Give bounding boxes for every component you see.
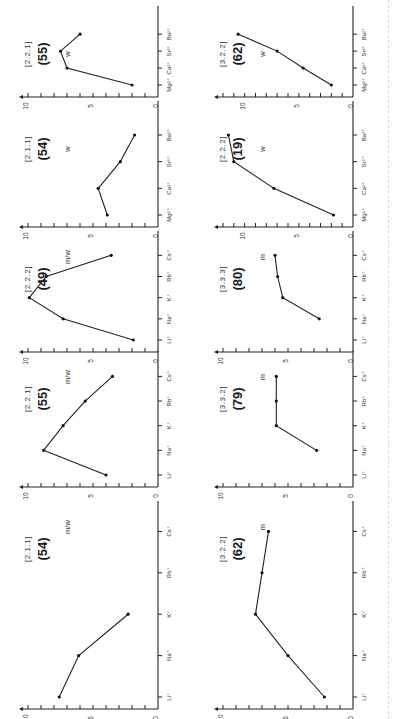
x-tick-label: Na⁺	[361, 650, 367, 661]
data-point	[84, 399, 87, 402]
y-tick-label: 10	[22, 714, 29, 719]
data-point	[276, 50, 279, 53]
x-tick-label: Ca²⁺	[361, 62, 367, 75]
x-tick-label: Mg²⁺	[361, 78, 367, 91]
compound-id: (79)	[230, 387, 245, 410]
x-tick-label: Cs⁺	[166, 250, 172, 260]
ligand-label: [2.2.1]	[23, 386, 32, 412]
compound-id: (55)	[35, 42, 50, 65]
y-tick-label: 5	[282, 359, 289, 363]
arrow-icon	[214, 350, 218, 354]
arrow-icon	[19, 225, 23, 229]
data-point	[275, 375, 278, 378]
panel-49-alkali: 0510Li⁺Na⁺K⁺Rb⁺Cs⁺[2.2.2](49)m/w	[0, 225, 180, 360]
x-tick-label: Ba²⁺	[166, 28, 172, 40]
x-tick-label: Cs⁺	[361, 371, 367, 381]
plot-axes: 0510Li⁺Na⁺K⁺Rb⁺Cs⁺	[214, 501, 367, 719]
x-tick-label: Rb⁺	[166, 271, 172, 282]
compound-id: (62)	[230, 42, 245, 65]
y-tick-label: 10	[217, 714, 224, 719]
data-point	[332, 213, 335, 216]
data-point	[58, 695, 61, 698]
x-tick-label: Cs⁺	[361, 250, 367, 260]
x-tick-label: K⁺	[166, 294, 172, 301]
data-point	[42, 449, 45, 452]
data-point	[130, 83, 133, 86]
selectivity-label: w	[258, 146, 267, 153]
data-line	[44, 376, 113, 475]
x-tick-label: Mg²⁺	[166, 78, 172, 91]
x-tick-label: Ca²⁺	[166, 62, 172, 75]
compound-id: (62)	[230, 537, 245, 560]
compound-id: (54)	[35, 137, 50, 160]
selectivity-label: m/w	[63, 370, 72, 384]
data-point	[62, 317, 65, 320]
y-tick-label: 0	[152, 104, 159, 108]
x-tick-label: Li⁺	[361, 471, 367, 479]
y-tick-label: 10	[22, 232, 29, 240]
y-tick-label: 0	[152, 494, 159, 498]
x-tick-label: Ba²⁺	[361, 129, 367, 141]
x-tick-label: Sr²⁺	[361, 46, 367, 57]
data-point	[237, 33, 240, 36]
selectivity-label: m	[258, 374, 267, 380]
panel-54-alkaline-earth: 0510Mg²⁺Ca²⁺Sr²⁺Ba²⁺[2.1.1](54)w	[0, 95, 180, 235]
x-tick-label: K⁺	[361, 294, 367, 301]
x-tick-label: Sr²⁺	[166, 156, 172, 167]
x-tick-label: Cs⁺	[166, 371, 172, 381]
data-line	[256, 531, 325, 697]
data-point	[273, 254, 276, 257]
selectivity-label: m/w	[63, 250, 72, 264]
ligand-label: [3.2.2]	[218, 41, 227, 67]
data-point	[260, 571, 263, 574]
data-point	[227, 133, 230, 136]
selectivity-label: w	[63, 51, 72, 58]
x-tick-label: Rb⁺	[361, 271, 367, 282]
data-point	[28, 296, 31, 299]
panel-79-alkali: 0510Li⁺Na⁺K⁺Rb⁺Cs⁺[3.3.2](79)m	[195, 345, 375, 495]
arrow-icon	[214, 485, 218, 489]
data-point	[110, 254, 113, 257]
data-point	[78, 33, 81, 36]
ligand-label: [2.2.2]	[23, 266, 32, 292]
panel-19-alkaline-earth: 0510Mg²⁺Ca²⁺Sr²⁺Ba²⁺[2.2.2](19)w	[195, 95, 375, 235]
data-point	[97, 187, 100, 190]
data-point	[119, 160, 122, 163]
plot-axes: 0510Li⁺Na⁺K⁺Rb⁺Cs⁺	[214, 231, 367, 365]
data-point	[330, 83, 333, 86]
data-point	[65, 66, 68, 69]
data-point	[276, 275, 279, 278]
data-line	[98, 135, 134, 215]
selectivity-label: m	[258, 524, 267, 530]
arrow-icon	[19, 350, 23, 354]
x-tick-label: Na⁺	[166, 445, 172, 456]
data-point	[111, 375, 114, 378]
panel-55-alkali: 0510Li⁺Na⁺K⁺Rb⁺Cs⁺[2.2.1](55)m/w	[0, 345, 180, 495]
ligand-label: [2.2.1]	[23, 41, 32, 67]
y-tick-label: 10	[239, 102, 246, 110]
x-tick-label: Mg²⁺	[361, 208, 367, 221]
x-tick-label: Ba²⁺	[166, 129, 172, 141]
plot-axes: 0510Li⁺Na⁺K⁺Rb⁺Cs⁺	[19, 231, 172, 365]
data-point	[281, 296, 284, 299]
selectivity-label: m	[258, 254, 267, 260]
y-tick-label: 5	[87, 494, 94, 498]
x-tick-label: Li⁺	[166, 336, 172, 344]
x-tick-label: Li⁺	[166, 693, 172, 701]
arrow-icon	[19, 485, 23, 489]
ligand-label: [2.1.1]	[23, 536, 32, 562]
x-tick-label: Sr²⁺	[166, 46, 172, 57]
plot-axes: 0510Li⁺Na⁺K⁺Rb⁺Cs⁺	[214, 351, 367, 500]
y-tick-label: 0	[347, 494, 354, 498]
compound-id: (49)	[35, 267, 50, 290]
y-tick-label: 5	[293, 104, 300, 108]
x-tick-label: Rb⁺	[166, 567, 172, 578]
compound-id: (19)	[230, 137, 245, 160]
data-point	[133, 133, 136, 136]
data-point	[267, 530, 270, 533]
data-point	[104, 473, 107, 476]
y-tick-label: 5	[293, 234, 300, 238]
y-tick-label: 0	[152, 359, 159, 363]
x-tick-label: Cs⁺	[166, 526, 172, 536]
plot-axes: 0510Li⁺Na⁺K⁺Rb⁺Cs⁺	[19, 351, 172, 500]
